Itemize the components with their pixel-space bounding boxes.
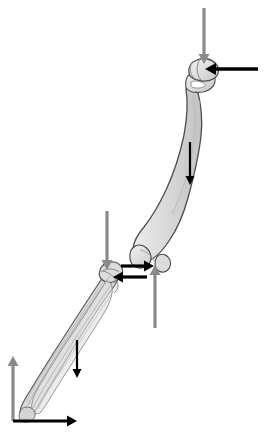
figure-background <box>0 0 265 435</box>
diagram-canvas <box>0 0 265 435</box>
free-body-diagram-figure <box>0 0 265 435</box>
